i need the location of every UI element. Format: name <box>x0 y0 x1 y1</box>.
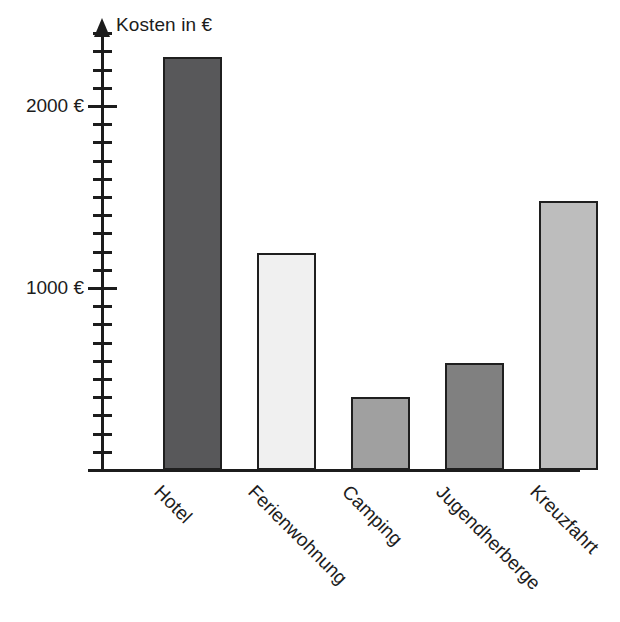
bar-kreuzfahrt <box>539 201 598 470</box>
y-axis-minor-tick <box>93 87 112 90</box>
y-axis-minor-tick <box>93 141 112 144</box>
y-axis-minor-tick <box>93 323 112 326</box>
y-axis-minor-tick <box>93 196 112 199</box>
y-axis-tick-label: 2000 € <box>26 95 84 117</box>
y-axis-minor-tick <box>93 232 112 235</box>
y-axis-minor-tick <box>93 69 112 72</box>
y-axis-minor-tick <box>93 178 112 181</box>
y-axis-minor-tick <box>93 451 112 454</box>
y-axis-minor-tick <box>93 160 112 163</box>
y-axis-minor-tick <box>93 433 112 436</box>
y-axis-minor-tick <box>93 305 112 308</box>
y-axis-minor-tick <box>93 414 112 417</box>
bar-hotel <box>163 57 222 470</box>
bar-jugendherberge <box>445 363 504 470</box>
y-axis-title: Kosten in € <box>116 14 212 36</box>
y-axis-major-tick <box>88 287 117 290</box>
y-axis-minor-tick <box>93 32 112 35</box>
x-axis-label-hotel: Hotel <box>149 481 196 528</box>
x-axis-label-kreuzfahrt: Kreuzfahrt <box>525 481 603 559</box>
y-axis-minor-tick <box>93 214 112 217</box>
plot-area: Kosten in € 1000 €2000 € HotelFerienwohn… <box>0 0 620 622</box>
x-axis-line <box>88 469 580 472</box>
bar-ferienwohnung <box>257 253 316 470</box>
y-axis-minor-tick <box>93 251 112 254</box>
y-axis-minor-tick <box>93 50 112 53</box>
bar-chart: Kosten in € 1000 €2000 € HotelFerienwohn… <box>0 0 620 622</box>
y-axis-minor-tick <box>93 123 112 126</box>
y-axis-minor-tick <box>93 342 112 345</box>
y-axis-minor-tick <box>93 378 112 381</box>
y-axis-minor-tick <box>93 360 112 363</box>
y-axis-tick-label: 1000 € <box>26 277 84 299</box>
y-axis-major-tick <box>88 105 117 108</box>
x-axis-label-camping: Camping <box>337 481 406 550</box>
x-axis-label-ferienwohnung: Ferienwohnung <box>243 481 351 589</box>
bar-camping <box>351 397 410 470</box>
y-axis-minor-tick <box>93 269 112 272</box>
y-axis-minor-tick <box>93 396 112 399</box>
